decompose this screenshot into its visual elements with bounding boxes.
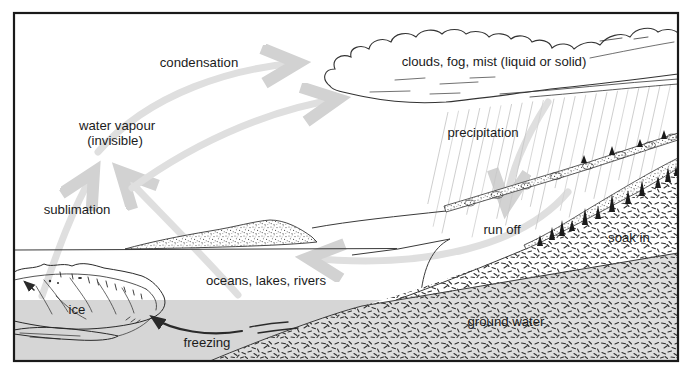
slope-line: [312, 211, 446, 228]
label-condensation: condensation: [160, 55, 238, 70]
distant-hill: [125, 220, 317, 249]
label-run-off: run off: [483, 222, 520, 237]
water-cycle-diagram: condensation clouds, fog, mist (liquid o…: [0, 0, 694, 379]
condensation-arrow-lower: [132, 99, 338, 188]
label-oceans: oceans, lakes, rivers: [206, 273, 327, 288]
label-invisible: (invisible): [87, 133, 143, 148]
label-ice: ice: [69, 302, 86, 317]
label-freezing: freezing: [184, 335, 231, 350]
label-sublimation: sublimation: [44, 202, 111, 217]
cycle-arrows: [42, 63, 568, 296]
sublimation-arrow: [42, 172, 94, 296]
diagram-canvas: condensation clouds, fog, mist (liquid o…: [0, 0, 694, 379]
label-clouds: clouds, fog, mist (liquid or solid): [402, 54, 587, 69]
label-water-vapour: water vapour: [78, 118, 156, 133]
label-precipitation: precipitation: [447, 125, 518, 140]
label-soak-in: soak in: [608, 230, 650, 245]
ice-surface-arrow: [25, 282, 34, 290]
label-ground-water: ground water: [468, 314, 546, 329]
horizon-line: [15, 249, 397, 251]
